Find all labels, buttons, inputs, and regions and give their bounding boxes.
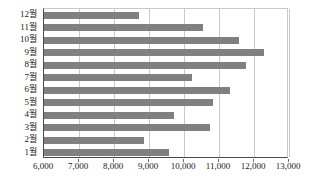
bar-11월 (44, 24, 203, 31)
x-axis-tick-10000 (183, 159, 184, 162)
x-axis-label-6000: 6,000 (33, 161, 53, 171)
x-axis-tick-9000 (148, 159, 149, 162)
y-axis-label-5월: 5월 (25, 96, 38, 109)
x-axis-label-9000: 9,000 (138, 161, 158, 171)
x-axis-label-7000: 7,000 (68, 161, 88, 171)
x-axis-labels: 6,0007,0008,0009,00010,00011,00012,00013… (0, 161, 313, 175)
y-axis-label-8월: 8월 (25, 58, 38, 71)
x-axis-tick-8000 (113, 159, 114, 162)
bar-7월 (44, 74, 192, 81)
plot-area (43, 8, 288, 158)
gridline-13000 (289, 9, 290, 157)
bar-row (44, 147, 169, 160)
x-axis-tick-11000 (218, 159, 219, 162)
x-axis-tick-7000 (78, 159, 79, 162)
bar-row (44, 34, 239, 47)
y-axis-label-10월: 10월 (20, 33, 37, 46)
bar-row (44, 59, 246, 72)
bar-row (44, 109, 174, 122)
y-axis-label-4월: 4월 (25, 108, 38, 121)
x-axis-label-13000: 13,000 (276, 161, 301, 171)
bar-5월 (44, 99, 213, 106)
y-axis-labels: 12월11월10월9월8월7월6월5월4월3월2월1월 (0, 8, 40, 158)
bar-chart: 12월11월10월9월8월7월6월5월4월3월2월1월 6,0007,0008,… (0, 0, 313, 182)
bar-10월 (44, 37, 239, 44)
bar-series (44, 9, 287, 157)
bar-4월 (44, 112, 174, 119)
bar-9월 (44, 49, 264, 56)
y-axis-label-9월: 9월 (25, 46, 38, 59)
bar-row (44, 72, 192, 85)
bar-row (44, 47, 264, 60)
y-axis-label-7월: 7월 (25, 71, 38, 84)
bar-row (44, 134, 144, 147)
y-axis-label-3월: 3월 (25, 121, 38, 134)
bar-row (44, 97, 213, 110)
x-axis-label-11000: 11,000 (206, 161, 230, 171)
x-axis-label-8000: 8,000 (103, 161, 123, 171)
y-axis-label-6월: 6월 (25, 83, 38, 96)
bar-row (44, 9, 139, 22)
bar-2월 (44, 137, 144, 144)
bar-row (44, 84, 230, 97)
bar-1월 (44, 149, 169, 156)
y-axis-label-1월: 1월 (25, 146, 38, 159)
bar-row (44, 122, 210, 135)
x-axis-label-12000: 12,000 (241, 161, 266, 171)
bar-6월 (44, 87, 230, 94)
x-axis-label-10000: 10,000 (171, 161, 196, 171)
y-axis-label-2월: 2월 (25, 133, 38, 146)
x-axis-tick-13000 (288, 159, 289, 162)
bar-row (44, 22, 203, 35)
y-axis-label-12월: 12월 (20, 8, 37, 21)
x-axis-tick-12000 (253, 159, 254, 162)
bar-12월 (44, 12, 139, 19)
bar-8월 (44, 62, 246, 69)
bar-3월 (44, 124, 210, 131)
y-axis-label-11월: 11월 (20, 21, 37, 34)
